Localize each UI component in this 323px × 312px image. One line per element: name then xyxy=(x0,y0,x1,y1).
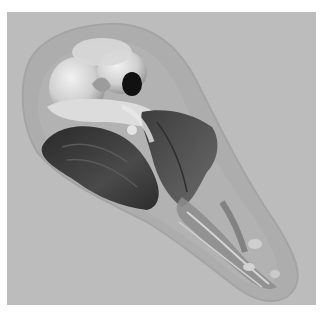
render-viewport xyxy=(7,12,316,305)
orbit-cavity xyxy=(122,72,142,96)
skull-volume-render xyxy=(7,12,316,305)
